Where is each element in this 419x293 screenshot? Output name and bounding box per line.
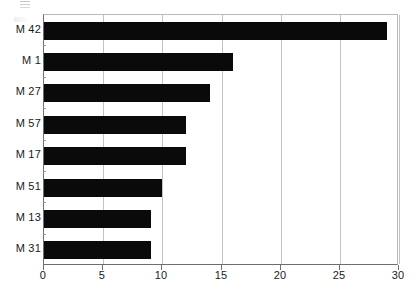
y-axis-category-label: M 17 <box>3 148 41 160</box>
y-axis-tick <box>43 171 46 172</box>
bar <box>44 22 387 40</box>
y-axis-tick <box>43 234 46 235</box>
y-axis-tick <box>43 45 46 46</box>
y-axis-tick <box>43 77 46 78</box>
x-axis-tick-label: 30 <box>392 269 405 281</box>
x-axis-tick-label: 0 <box>40 269 46 281</box>
x-axis-tick-label: 25 <box>333 269 346 281</box>
y-axis-tick <box>43 108 46 109</box>
x-axis-tick-label: 15 <box>215 269 228 281</box>
scan-artifact-icon <box>20 1 30 10</box>
y-axis-category-label: M 1 <box>3 54 41 66</box>
y-axis-category-label: M 42 <box>3 23 41 35</box>
y-axis-category-label: M 51 <box>3 180 41 192</box>
y-axis-category-label: M 57 <box>3 117 41 129</box>
bar <box>44 147 186 165</box>
bar <box>44 210 151 228</box>
bar <box>44 84 210 102</box>
x-axis-tick-label: 20 <box>274 269 287 281</box>
y-axis-tick <box>43 140 46 141</box>
x-axis-tick-label: 5 <box>99 269 105 281</box>
bar <box>44 116 186 134</box>
x-axis-tick-label: 10 <box>155 269 168 281</box>
y-axis-tick <box>43 202 46 203</box>
gridline <box>340 15 341 264</box>
bar <box>44 241 151 259</box>
bar-chart: M 42M 1M 27M 57M 17M 51M 13M 31 05101520… <box>0 0 419 293</box>
bar <box>44 53 233 71</box>
bar <box>44 179 162 197</box>
y-axis-category-labels: M 42M 1M 27M 57M 17M 51M 13M 31 <box>0 14 41 265</box>
y-axis-category-label: M 31 <box>3 242 41 254</box>
plot-area <box>43 14 398 265</box>
gridline <box>281 15 282 264</box>
y-axis-category-label: M 27 <box>3 85 41 97</box>
gridline <box>399 15 400 264</box>
y-axis-category-label: M 13 <box>3 211 41 223</box>
